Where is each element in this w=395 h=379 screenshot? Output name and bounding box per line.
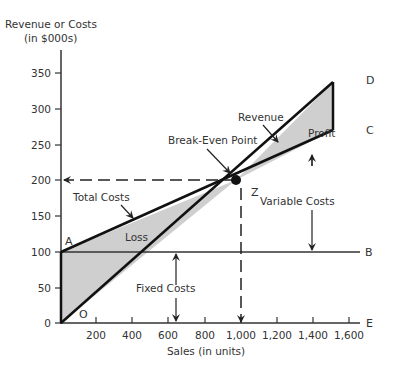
x-ticks (96, 317, 349, 323)
break-even-point (231, 175, 241, 185)
svg-text:1,600: 1,600 (334, 329, 364, 341)
variable-costs-label: Variable Costs (260, 195, 335, 207)
svg-text:600: 600 (158, 329, 178, 341)
x-tick-labels: 200 400 600 800 1,000 1,200 1,400 1,600 (86, 329, 364, 341)
y-tick-labels: 0 50 100 150 200 250 300 350 (31, 67, 51, 329)
point-z-label: Z (251, 186, 259, 199)
svg-text:100: 100 (31, 246, 51, 258)
svg-text:50: 50 (38, 282, 51, 294)
svg-text:800: 800 (195, 329, 215, 341)
svg-text:400: 400 (122, 329, 142, 341)
point-b-label: B (365, 246, 373, 259)
break-even-chart: Revenue or Costs (in $000s) 0 50 100 150… (0, 0, 395, 379)
break-even-label: Break-Even Point (168, 134, 257, 146)
svg-text:250: 250 (31, 139, 51, 151)
point-o-label: O (79, 308, 88, 321)
point-c-label: C (366, 124, 374, 137)
point-e-label: E (366, 317, 373, 330)
svg-text:1,400: 1,400 (298, 329, 328, 341)
point-a-label: A (65, 235, 73, 248)
svg-text:1,200: 1,200 (262, 329, 292, 341)
revenue-label: Revenue (238, 111, 284, 123)
svg-text:1,000: 1,000 (226, 329, 256, 341)
svg-text:200: 200 (86, 329, 106, 341)
loss-label: Loss (125, 231, 148, 243)
svg-text:200: 200 (31, 174, 51, 186)
point-d-label: D (366, 74, 374, 87)
svg-text:350: 350 (31, 67, 51, 79)
profit-label: Profit (308, 127, 335, 139)
svg-text:300: 300 (31, 103, 51, 115)
y-axis-label: Revenue or Costs (5, 18, 97, 30)
total-costs-label: Total Costs (72, 191, 130, 203)
svg-text:0: 0 (44, 317, 51, 329)
break-even-pointer (207, 149, 230, 173)
y-axis-label-unit: (in $000s) (24, 32, 77, 44)
fixed-costs-label: Fixed Costs (136, 282, 195, 294)
x-axis-label: Sales (in units) (167, 345, 245, 357)
total-costs-pointer (121, 205, 133, 218)
svg-text:150: 150 (31, 210, 51, 222)
